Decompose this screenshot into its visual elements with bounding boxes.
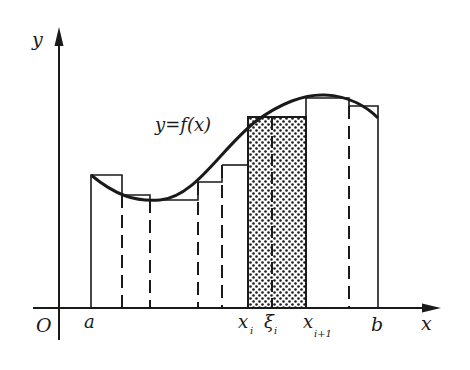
rectangle-7 bbox=[306, 98, 349, 308]
rectangle-8 bbox=[349, 106, 378, 308]
function-curve bbox=[91, 95, 378, 200]
b-label: b bbox=[371, 313, 383, 335]
partition-dashed-lines bbox=[122, 106, 349, 308]
y-axis-arrow-icon bbox=[55, 27, 64, 46]
origin-label: O bbox=[36, 314, 52, 336]
y-axis-label: y bbox=[31, 28, 43, 50]
riemann-sum-diagram: y x O y=f(x) a b x i ξ i x i+1 bbox=[0, 0, 470, 370]
svg-text:x: x bbox=[238, 311, 248, 332]
svg-text:i+1: i+1 bbox=[314, 328, 332, 339]
a-label: a bbox=[84, 311, 95, 332]
highlighted-rectangle bbox=[248, 117, 306, 308]
xi-plus-1-label: x i+1 bbox=[303, 311, 332, 339]
x-axis-label: x bbox=[421, 312, 432, 334]
xi-label: x i bbox=[238, 311, 253, 336]
svg-text:i: i bbox=[274, 325, 277, 336]
rectangle-1 bbox=[91, 175, 122, 308]
xi-sample-label: ξ i bbox=[264, 311, 277, 336]
riemann-rectangles bbox=[91, 98, 378, 308]
svg-text:x: x bbox=[303, 311, 313, 332]
curve-label: y=f(x) bbox=[154, 114, 211, 135]
axes bbox=[33, 27, 441, 340]
svg-text:i: i bbox=[250, 325, 253, 336]
